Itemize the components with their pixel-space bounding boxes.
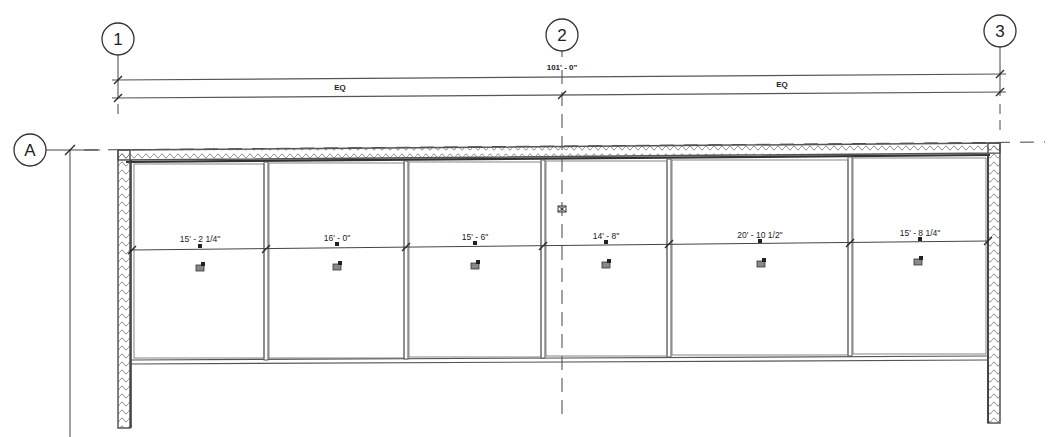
grid-line-3[interactable]: 3 xyxy=(984,15,1016,130)
room-2-width: 16' - 0" xyxy=(324,233,350,243)
floor-plan-canvas: 1 2 3 A 101' - 0" EQ xyxy=(0,0,1051,437)
room-6-width: 15' - 8 1/4" xyxy=(900,228,941,238)
grid-label-3: 3 xyxy=(995,22,1004,41)
grid-label-1: 1 xyxy=(113,30,122,49)
room-4-width: 14' - 8" xyxy=(593,231,619,241)
room-5-width: 20' - 10 1/2" xyxy=(737,230,782,240)
overall-dimension[interactable]: 101' - 0" xyxy=(112,63,1006,84)
room-tag-icon[interactable] xyxy=(333,261,342,270)
grid-line-2[interactable]: 2 xyxy=(546,19,578,420)
room-5[interactable]: 20' - 10 1/2" xyxy=(737,230,782,267)
eq-dimension-left: EQ xyxy=(334,83,346,92)
eq-dimension-right: EQ xyxy=(776,80,788,89)
room-3[interactable]: 15' - 6" xyxy=(462,232,488,269)
room-1[interactable]: 15' - 2 1/4" xyxy=(180,234,221,271)
room-tag-icon[interactable] xyxy=(914,256,923,265)
room-3-width: 15' - 6" xyxy=(462,232,488,242)
room-dimension-string[interactable] xyxy=(128,237,992,254)
grid-label-a: A xyxy=(24,141,36,160)
room-4[interactable]: 14' - 8" xyxy=(558,206,619,268)
room-tag-icon[interactable] xyxy=(471,260,480,269)
grid-label-2: 2 xyxy=(557,26,566,45)
corridor-wall[interactable] xyxy=(131,356,988,364)
rooms xyxy=(134,158,986,358)
room-tag-icon[interactable] xyxy=(196,262,205,271)
grid-line-a[interactable]: A xyxy=(14,134,1045,437)
eq-dimension-string[interactable]: EQ EQ xyxy=(112,80,1006,102)
room-1-width: 15' - 2 1/4" xyxy=(180,234,221,244)
overall-dimension-text: 101' - 0" xyxy=(547,63,578,72)
room-6[interactable]: 15' - 8 1/4" xyxy=(900,228,941,265)
room-tag-icon[interactable] xyxy=(757,258,766,267)
exterior-wall[interactable] xyxy=(118,143,1000,428)
room-2[interactable]: 16' - 0" xyxy=(324,233,350,270)
room-tag-icon[interactable] xyxy=(602,259,611,268)
grid-line-1[interactable]: 1 xyxy=(102,23,134,120)
